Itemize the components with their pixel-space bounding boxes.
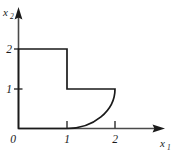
figure-container: 0 1 2 1 2 x 2 x 1: [0, 0, 177, 153]
x-axis-label-main: x: [159, 137, 165, 149]
tick-label-origin: 0: [10, 133, 16, 145]
region-outline-path: [19, 49, 116, 129]
tick-label-y-2: 2: [6, 43, 12, 55]
region-boundary-group: [19, 49, 116, 129]
tick-label-x-1: 1: [64, 133, 70, 145]
tick-labels-group: 0 1 2 1 2: [6, 43, 118, 145]
x-axis-label-subscript: 1: [167, 143, 171, 152]
y-axis-label-subscript: 2: [10, 12, 14, 21]
tick-label-x-2: 2: [112, 133, 118, 145]
y-axis-label-main: x: [2, 6, 8, 18]
region-plot-svg: 0 1 2 1 2 x 2 x 1: [0, 0, 177, 153]
axes-group: [15, 7, 165, 132]
tick-label-y-1: 1: [6, 83, 12, 95]
axis-labels-group: x 2 x 1: [2, 6, 171, 152]
